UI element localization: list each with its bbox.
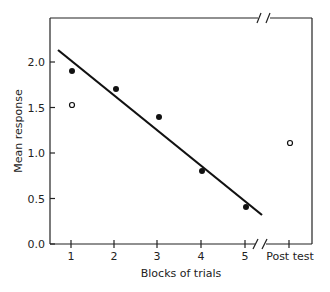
data-point <box>113 86 119 92</box>
y-tick-label: 1.5 <box>28 102 46 115</box>
plot-frame <box>50 18 312 244</box>
data-point <box>199 168 205 174</box>
x-tick-label: Post test <box>266 250 314 263</box>
data-point <box>69 68 75 74</box>
y-axis-title: Mean response <box>12 89 25 173</box>
open-points <box>70 103 293 146</box>
y-tick-label: 0.0 <box>28 238 46 251</box>
y-tick-label: 2.0 <box>28 56 46 69</box>
x-tick-label: 1 <box>68 250 75 263</box>
x-tick-label: 5 <box>242 250 249 263</box>
filled-points <box>69 68 249 210</box>
x-axis-title: Blocks of trials <box>141 267 222 280</box>
x-tick-label: 3 <box>154 250 161 263</box>
data-point <box>243 204 249 210</box>
break-mark-top-2 <box>266 13 270 23</box>
y-tick-label: 1.0 <box>28 147 46 160</box>
chart: 0.0 0.5 1.0 1.5 2.0 1 2 3 4 5 Post test … <box>0 0 330 292</box>
x-tick-label: 4 <box>198 250 205 263</box>
x-tick-label: 2 <box>111 250 118 263</box>
data-point <box>156 114 162 120</box>
data-point <box>288 141 293 146</box>
data-point <box>70 103 75 108</box>
regression-line <box>58 50 262 215</box>
y-ticks <box>50 62 55 244</box>
y-tick-label: 0.5 <box>28 193 46 206</box>
